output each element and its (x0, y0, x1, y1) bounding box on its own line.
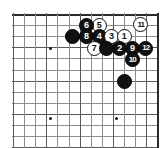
grid-line-vertical (135, 13, 136, 148)
grid-line-horizontal (12, 103, 158, 104)
go-board-diagram: 561184317291210 (0, 0, 163, 148)
star-point-lower-left (49, 117, 52, 120)
grid-line-vertical (35, 13, 36, 148)
grid-line-vertical (57, 13, 58, 148)
stone-label: 6 (84, 20, 89, 29)
grid-line-horizontal (12, 81, 158, 82)
grid-line-vertical (157, 13, 159, 148)
stone-black-12: 12 (138, 41, 153, 56)
grid-line-horizontal (12, 125, 158, 126)
grid-line-horizontal (12, 147, 158, 148)
stone-label: 5 (97, 20, 102, 29)
stone-label: 4 (97, 32, 102, 41)
grid-line-horizontal (12, 14, 158, 16)
stone-label: 7 (92, 43, 97, 52)
grid-line-vertical (46, 13, 47, 148)
grid-line-vertical (146, 13, 147, 148)
stone-label: 12 (142, 44, 149, 52)
stone-label: 2 (117, 43, 122, 52)
stone-label: 11 (137, 20, 143, 28)
star-point-upper-left (49, 47, 52, 50)
grid-line-horizontal (12, 136, 158, 137)
grid-line-vertical (24, 13, 25, 148)
grid-line-horizontal (12, 70, 158, 71)
stone-label: 10 (129, 55, 136, 63)
star-point-lower-right (115, 117, 118, 120)
grid-line-vertical (13, 13, 14, 148)
grid-line-horizontal (12, 92, 158, 93)
stone-label: 3 (109, 32, 114, 41)
stone-black-plain-c (117, 74, 132, 89)
stone-label: 8 (84, 32, 89, 41)
stone-black-10: 10 (125, 52, 140, 67)
stone-label: 1 (122, 32, 127, 41)
grid-line-horizontal (12, 114, 158, 115)
